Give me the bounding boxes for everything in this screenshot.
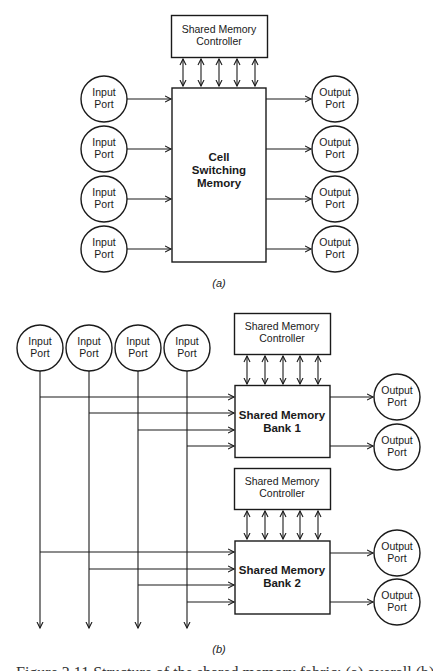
port-label-line1: Output [312,137,358,149]
bank-label-line2: Bank 1 [232,422,332,435]
port-label-line1: Input [115,336,161,348]
controller-label-line2: Controller [170,36,268,48]
port-label-line2: Port [164,348,210,360]
port-label-line1: Output [312,87,358,99]
part-b [17,314,420,629]
port-label-line2: Port [81,249,127,261]
port-label-line2: Port [115,348,161,360]
figure-caption-clipped: Figure 3.11 Structure of the shared memo… [0,662,433,671]
port-label-line1: Output [312,237,358,249]
memory-label: Cell Switching Memory [169,151,269,190]
bank-label-line1: Shared Memory [232,564,332,577]
controller-label-line1: Shared Memory [233,476,331,488]
controller-label-line1: Shared Memory [233,321,331,333]
input-port-label: InputPort [81,187,127,211]
memory-label-line1: Cell [169,151,269,164]
port-label-line2: Port [374,397,420,409]
port-label-line2: Port [312,99,358,111]
output-arrows [266,99,311,249]
port-label-line1: Input [66,336,112,348]
bank-label-line2: Bank 2 [232,577,332,590]
port-label-line1: Output [312,187,358,199]
input-bus-lines [40,371,187,628]
input-arrows [127,99,171,249]
input-port-label: InputPort [17,336,63,360]
controller-bus-arrows [183,59,255,86]
input-port-label: InputPort [81,87,127,111]
port-label-line1: Input [17,336,63,348]
port-label-line2: Port [81,149,127,161]
port-label-line2: Port [312,249,358,261]
bank-2-output-arrows [330,553,373,602]
port-label-line1: Input [81,87,127,99]
port-label-line1: Output [374,541,420,553]
port-label-line1: Input [164,336,210,348]
output-port-label: OutputPort [312,237,358,261]
port-label-line2: Port [66,348,112,360]
controller-2-bus-arrows [247,511,318,539]
output-port-label: OutputPort [312,87,358,111]
output-port-label: OutputPort [374,435,420,459]
input-port-label: InputPort [115,336,161,360]
bank-1-output-arrows [330,397,373,446]
figure-caption-text: Figure 3.11 Structure of the shared memo… [16,664,433,671]
figure-canvas [0,0,433,671]
output-port-label: OutputPort [374,590,420,614]
controller-2-label: Shared Memory Controller [233,476,331,500]
part-b-label: (b) [204,643,234,655]
controller-label-line2: Controller [233,333,331,345]
controller-1-bus-arrows [247,356,318,384]
port-label-line2: Port [312,149,358,161]
input-port-label: InputPort [81,137,127,161]
output-port-label: OutputPort [374,385,420,409]
controller-label-line1: Shared Memory [170,24,268,36]
port-label-line1: Output [374,385,420,397]
port-label-line2: Port [374,447,420,459]
port-label-line1: Input [81,237,127,249]
port-label-line2: Port [81,199,127,211]
bank-2-input-arrows [40,552,234,602]
port-label-line1: Output [374,435,420,447]
memory-label-line3: Memory [169,177,269,190]
bank-1-label: Shared Memory Bank 1 [232,409,332,435]
output-port-label: OutputPort [312,137,358,161]
controller-label-line2: Controller [233,488,331,500]
memory-label-line2: Switching [169,164,269,177]
input-port-label: InputPort [81,237,127,261]
output-port-label: OutputPort [374,541,420,565]
bank-1-input-arrows [40,397,234,446]
bank-2-label: Shared Memory Bank 2 [232,564,332,590]
bank-label-line1: Shared Memory [232,409,332,422]
port-label-line2: Port [17,348,63,360]
output-port-label: OutputPort [312,187,358,211]
port-label-line1: Output [374,590,420,602]
part-a-label: (a) [204,277,234,289]
port-label-line2: Port [374,553,420,565]
input-port-label: InputPort [66,336,112,360]
controller-label: Shared Memory Controller [170,24,268,48]
port-label-line1: Input [81,137,127,149]
port-label-line2: Port [81,99,127,111]
port-label-line1: Input [81,187,127,199]
port-label-line2: Port [374,602,420,614]
controller-1-label: Shared Memory Controller [233,321,331,345]
port-label-line2: Port [312,199,358,211]
input-port-label: InputPort [164,336,210,360]
